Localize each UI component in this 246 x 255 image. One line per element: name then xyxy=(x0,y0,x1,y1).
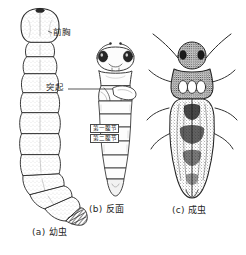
adult-pronotal-spot-right xyxy=(196,81,205,94)
callout-label-abdominal-segment-2: 第二腹节 xyxy=(90,134,119,143)
adult-eye-right xyxy=(198,51,204,60)
adult-pronotal-spot-left xyxy=(178,81,187,94)
panel-caption-adult: (c) 成虫 xyxy=(172,206,207,215)
pupa-eye-left xyxy=(98,51,107,62)
callout-label-prothorax: 前胸 xyxy=(53,28,71,37)
panel-caption-pupa: (b) 反面 xyxy=(89,205,124,214)
callout-label-abdominal-segment-1: 第一腹节 xyxy=(90,124,119,133)
insect-life-stages-figure xyxy=(0,0,246,255)
pupa-abdominal-segment-5 xyxy=(103,155,128,168)
callout-label-process: 突起 xyxy=(46,83,64,92)
pupa-abdominal-segment-4 xyxy=(102,141,130,155)
adult-eye-left xyxy=(180,51,186,60)
larva-head-capsule xyxy=(36,8,44,12)
panel-caption-larva: (a) 幼虫 xyxy=(32,228,67,237)
pupa-abdominal-segment-1 xyxy=(99,101,132,114)
adult-pronotal-spot-center xyxy=(187,81,196,94)
pupa-abdominal-segment-6 xyxy=(105,168,126,179)
pupa-eye-right xyxy=(123,51,132,62)
